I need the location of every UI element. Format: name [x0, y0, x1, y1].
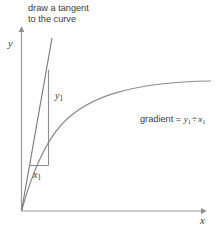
tangent-annotation-line1: draw a tangent — [28, 3, 89, 13]
gradient-formula-prefix: gradient = — [140, 114, 184, 124]
gradient-formula-annotation: gradient = y1÷x1 — [140, 114, 206, 126]
gradient-denominator-subscript: 1 — [202, 118, 205, 125]
y-axis-label: y — [8, 38, 13, 51]
tangent-annotation: draw a tangent to the curve — [28, 3, 89, 25]
tangent-annotation-line2: to the curve — [28, 14, 76, 24]
tangent-gradient-diagram: draw a tangent to the curve gradient = y… — [0, 0, 221, 232]
x-axis-label: x — [200, 215, 205, 228]
tangent-line — [22, 38, 53, 211]
run-label-subscript: 1 — [37, 174, 41, 182]
rise-label-subscript: 1 — [59, 95, 63, 103]
run-label: x1 — [33, 169, 41, 183]
rise-label: y1 — [55, 90, 63, 104]
curve-path — [22, 81, 212, 211]
